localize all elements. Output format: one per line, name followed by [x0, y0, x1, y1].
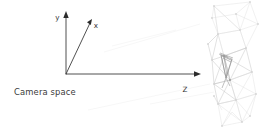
- figure-canvas: y x Z Camera space: [0, 0, 263, 128]
- y-axis-label: y: [55, 13, 60, 22]
- x-axis-label: x: [94, 21, 99, 30]
- camera-space-caption: Camera space: [14, 87, 76, 97]
- z-axis-label: Z: [183, 85, 188, 94]
- camera-space-figure: y x Z Camera space: [0, 0, 263, 128]
- origin-point: [65, 73, 66, 74]
- figure-background: [0, 0, 263, 128]
